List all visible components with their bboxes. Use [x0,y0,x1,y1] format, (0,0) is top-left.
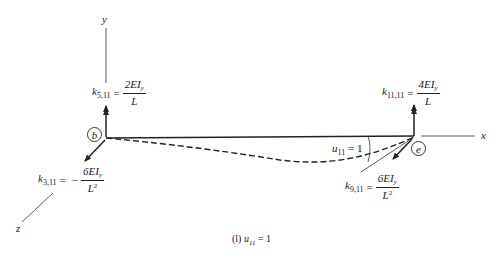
coefficient-k5-11: k5,11 = 2EIy L [92,78,146,107]
moment-arrow-e-head2 [411,107,417,114]
beam-diagram [0,0,504,261]
z-axis [22,193,53,222]
coefficient-k9-11: k9,11 = 6EIy L2 [345,172,399,201]
coefficient-k11-11: k11,11 = 4EIy L [382,78,440,107]
y-axis-label: y [102,14,107,25]
rotation-arc [368,136,370,162]
fraction: 6EIy L2 [81,165,104,194]
node-e: e [411,141,426,156]
figure-caption: (l) u11 = 1 [232,233,271,247]
rotation-label: u11 = 1 [332,143,362,157]
coefficient-k3-11: k3,11 = − 6EIy L2 [38,165,104,194]
fraction: 6EIy L2 [376,172,399,201]
node-b: b [87,127,102,142]
x-axis-label: x [481,130,486,141]
moment-arrow-b-head2 [103,108,109,115]
fraction: 2EIy L [123,78,146,107]
z-axis-label: z [16,223,20,234]
fraction: 4EIy L [417,78,440,107]
deflected-shape [106,137,414,162]
force-arrow-b [85,140,105,161]
